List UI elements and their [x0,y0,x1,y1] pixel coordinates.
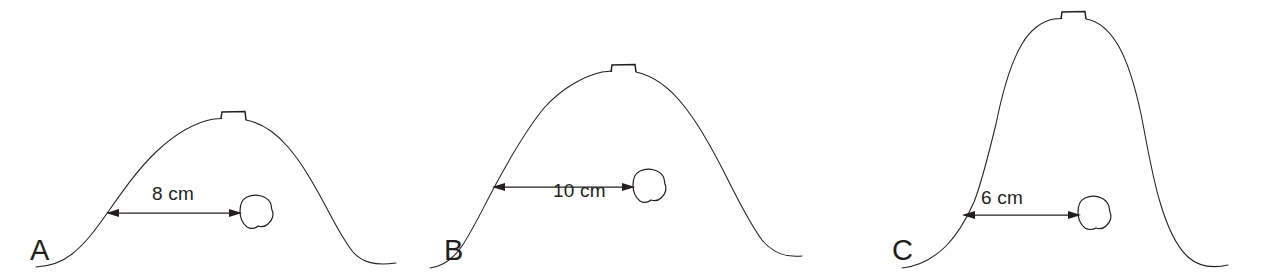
panel-letter-b: B [444,236,463,265]
apex-notch-c [1061,12,1086,20]
lobed-circle-c [1078,196,1111,229]
panel-c: 6 cm C [850,0,1265,279]
lobed-circle-a [240,195,273,228]
dimension-label-b: 10 cm [553,181,606,200]
dimension-label-c: 6 cm [981,188,1023,207]
panel-a: 8 cm A [0,0,420,279]
dimension-arrow-a-head-left [106,209,119,217]
panel-letter-a: A [30,236,49,265]
dimension-arrow-b-head-left [492,183,505,191]
apex-notch-b [611,65,636,73]
panel-b-drawing [420,0,850,279]
lobed-circle-b [633,169,666,202]
figure-root: 8 cm A 10 cm B 6 cm C [0,0,1265,279]
profile-curve-c-right [1086,19,1228,267]
dimension-label-a: 8 cm [152,184,194,203]
panel-b: 10 cm B [420,0,850,279]
profile-curve-a [36,119,222,268]
panel-a-drawing [0,0,420,279]
apex-notch-a [221,112,246,121]
panel-letter-c: C [892,236,913,265]
dimension-arrow-c-head-left [962,211,975,219]
profile-curve-a-right [246,120,396,264]
profile-curve-b-right [636,72,802,256]
profile-curve-c [902,19,1062,269]
